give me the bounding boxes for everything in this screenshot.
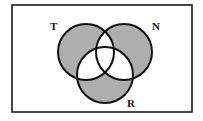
- venn-diagram-canvas: T N R: [0, 0, 203, 121]
- set-label-t: T: [50, 20, 58, 32]
- venn-diagram-figure: T N R: [0, 0, 203, 121]
- set-label-n: N: [152, 20, 160, 32]
- set-label-r: R: [127, 97, 136, 109]
